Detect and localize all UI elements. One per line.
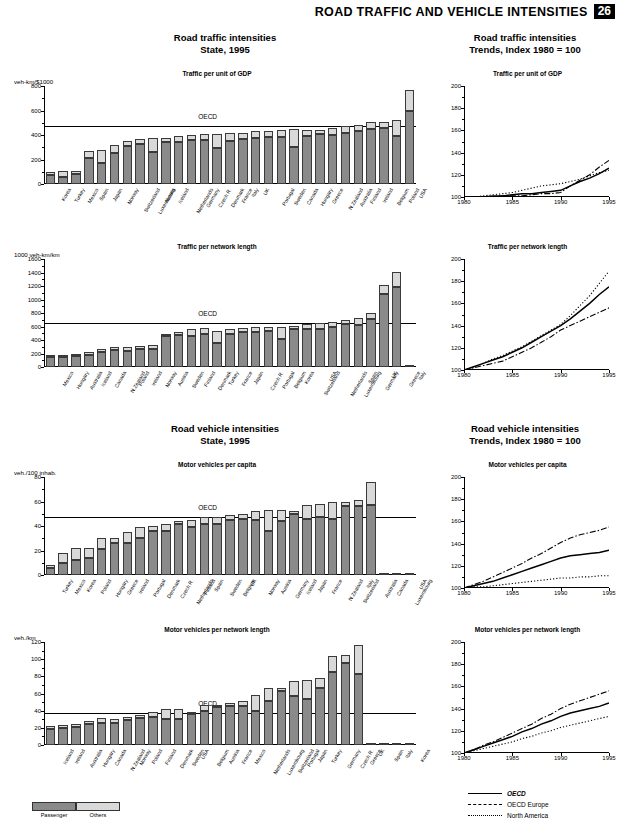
- bar-segment-passenger: [302, 329, 311, 367]
- bar-segment-passenger: [225, 520, 234, 575]
- bar: [135, 139, 144, 184]
- bar-segment-others: [148, 138, 157, 151]
- line-north-america: [464, 576, 609, 588]
- bar-segment-others: [71, 171, 80, 173]
- bar: [97, 150, 106, 184]
- y-tick-label: 160: [451, 300, 464, 306]
- bar: [110, 719, 119, 745]
- bar-segment-passenger: [148, 531, 157, 575]
- bar-segment-passenger: [212, 524, 221, 575]
- bar-segment-others: [174, 521, 183, 524]
- line-north-america: [464, 271, 609, 370]
- line-oecd-europe: [464, 527, 609, 588]
- bar-segment-passenger: [58, 357, 67, 367]
- bar-segment-others: [328, 128, 337, 135]
- page-header: ROAD TRAFFIC AND VEHICLE INTENSITIES 26: [315, 4, 615, 19]
- bar-segment-passenger: [84, 558, 93, 575]
- bar: [46, 172, 55, 184]
- bar: [366, 122, 375, 184]
- bar: [200, 705, 209, 745]
- bar: [174, 521, 183, 576]
- country-label: Korea: [419, 748, 431, 763]
- bar: [225, 515, 234, 575]
- bar-segment-passenger: [110, 723, 119, 745]
- bar-segment-others: [148, 345, 157, 349]
- chart-traffic-per-gdp-bars: Traffic per unit of GDPveh-km/$100002004…: [14, 70, 420, 230]
- country-label: Mexico: [253, 748, 266, 765]
- country-label: Belgium: [395, 187, 410, 206]
- bar: [135, 346, 144, 367]
- bar: [392, 272, 401, 367]
- bar-segment-others: [97, 718, 106, 722]
- y-tick-label: 120: [451, 728, 464, 734]
- bar-segment-passenger: [135, 349, 144, 367]
- y-tick-label: 20: [34, 548, 44, 554]
- bar-segment-passenger: [392, 287, 401, 367]
- traffic-trends-title-2: Trends, Index 1980 = 100: [430, 44, 620, 56]
- line-key-north-america: [468, 815, 502, 816]
- bar: [251, 695, 260, 745]
- y-tick-label: 600: [31, 324, 44, 330]
- bar: [187, 329, 196, 367]
- bar: [238, 701, 247, 745]
- bar-segment-others: [354, 500, 363, 506]
- page-number-badge: 26: [594, 4, 615, 19]
- bar: [328, 128, 337, 184]
- bar-segment-others: [341, 502, 350, 507]
- bar-segment-others: [277, 510, 286, 521]
- bar: [251, 327, 260, 367]
- bar-segment-others: [238, 514, 247, 519]
- bar: [238, 133, 247, 184]
- x-tick-label: 1985: [506, 590, 519, 596]
- x-tick-label: 1980: [457, 199, 470, 205]
- bar-segment-passenger: [277, 339, 286, 367]
- bar: [277, 130, 286, 184]
- y-tick-label: 1400: [28, 270, 44, 276]
- bar-segment-others: [161, 524, 170, 531]
- bar: [212, 705, 221, 745]
- bar-segment-others: [212, 517, 221, 523]
- plot-area: 0200400600800OECD: [44, 86, 416, 184]
- bar-segment-passenger: [161, 719, 170, 745]
- bar-segment-others: [97, 150, 106, 163]
- bar-segment-others: [187, 135, 196, 140]
- y-tick-label: 80: [34, 474, 44, 480]
- bar: [97, 349, 106, 367]
- section-title-vehicle-state: Road vehicle intensities State, 1995: [30, 423, 420, 446]
- bar-segment-others: [135, 139, 144, 145]
- oecd-reference-label: OECD: [198, 504, 217, 511]
- oecd-reference-label: OECD: [198, 310, 217, 317]
- bar: [328, 656, 337, 745]
- bar-legend: Passenger Others: [32, 802, 120, 818]
- plot-area: 100120140160180200: [464, 259, 609, 370]
- country-label: Spain: [393, 748, 405, 763]
- bar-segment-others: [174, 332, 183, 334]
- bar-segment-others: [71, 548, 80, 560]
- bar-segment-passenger: [110, 153, 119, 184]
- country-label: Mexico: [74, 578, 87, 595]
- bar-segment-others: [289, 129, 298, 147]
- bar-segment-others: [405, 90, 414, 111]
- chart-subtitle: Traffic per network length: [14, 243, 420, 250]
- country-label: Japan: [252, 370, 264, 385]
- chart-subtitle: Motor vehicles per capita: [440, 461, 615, 468]
- y-tick-minor: [42, 360, 44, 361]
- x-tick-label: 1980: [457, 755, 470, 761]
- bar-segment-others: [392, 743, 401, 745]
- bar: [174, 709, 183, 745]
- bar-segment-passenger: [200, 334, 209, 367]
- bar-segment-passenger: [277, 137, 286, 184]
- bar: [341, 126, 350, 184]
- bar-segment-passenger: [277, 691, 286, 745]
- bar-segment-passenger: [58, 728, 67, 745]
- bar-segment-passenger: [161, 336, 170, 367]
- bar-segment-others: [366, 313, 375, 319]
- bar: [341, 655, 350, 745]
- trend-legend-oecd: OECD: [468, 788, 549, 799]
- bar: [302, 680, 311, 745]
- y-tick-minor: [42, 266, 44, 267]
- bar: [148, 526, 157, 575]
- bar-segment-others: [264, 327, 273, 331]
- bar: [264, 327, 273, 368]
- country-label: Norway: [125, 187, 139, 205]
